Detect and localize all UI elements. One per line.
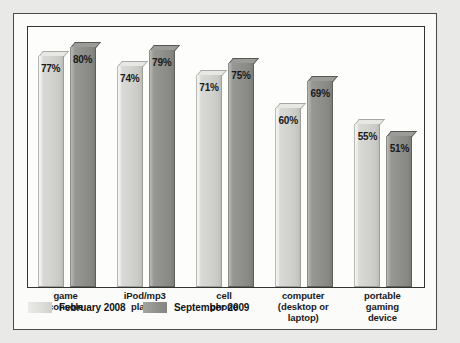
bar-february-2008: 74% [117, 61, 143, 287]
legend-item[interactable]: September 2009 [143, 302, 249, 313]
bar-february-2008: 60% [275, 103, 301, 287]
bar-september-2009: 79% [149, 45, 175, 287]
legend-label: February 2008 [59, 302, 126, 313]
bar-front-face [117, 66, 143, 287]
legend-swatch-dark [143, 302, 167, 313]
legend-swatch-light [28, 302, 52, 313]
bar-value-label: 51% [386, 143, 412, 154]
category-label-line: portable [332, 290, 432, 301]
bar-front-face [307, 81, 333, 287]
bar-value-label: 74% [117, 73, 143, 84]
bar-front-face [228, 63, 254, 287]
bar-value-label: 75% [228, 70, 254, 81]
bar-september-2009: 69% [307, 76, 333, 287]
chart-figure: 77%80%74%79%71%75%60%69%55%51% gameconso… [13, 13, 437, 330]
bar-september-2009: 80% [70, 42, 96, 287]
bar-value-label: 69% [307, 88, 333, 99]
bar-front-face [275, 108, 301, 287]
bar-february-2008: 71% [196, 70, 222, 287]
bar-value-label: 80% [70, 54, 96, 65]
bar-value-label: 60% [275, 115, 301, 126]
bar-february-2008: 77% [38, 51, 64, 287]
bar-front-face [149, 50, 175, 287]
bar-front-face [70, 47, 96, 287]
bar-value-label: 55% [354, 131, 380, 142]
legend-label: September 2009 [174, 302, 249, 313]
bar-front-face [38, 56, 64, 287]
bars-layer: 77%80%74%79%71%75%60%69%55%51% [28, 27, 424, 287]
chart-legend: February 2008September 2009 [28, 302, 426, 322]
bar-value-label: 71% [196, 82, 222, 93]
bar-front-face [354, 124, 380, 287]
bar-february-2008: 55% [354, 119, 380, 287]
bar-front-face [196, 75, 222, 287]
bar-september-2009: 75% [228, 58, 254, 287]
bar-value-label: 79% [149, 57, 175, 68]
legend-item[interactable]: February 2008 [28, 302, 126, 313]
bar-september-2009: 51% [386, 131, 412, 287]
bar-front-face [386, 136, 412, 287]
plot-area: 77%80%74%79%71%75%60%69%55%51% [27, 26, 425, 288]
bar-value-label: 77% [38, 63, 64, 74]
